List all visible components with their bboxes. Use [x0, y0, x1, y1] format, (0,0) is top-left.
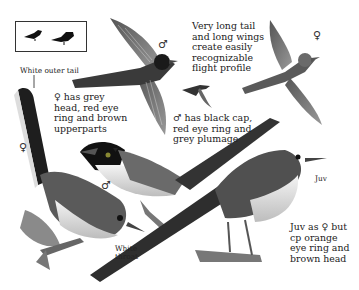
juvenile-tag: Juv: [315, 175, 327, 183]
male-description: ♂ has black cap, red eye ring and grey p…: [173, 113, 252, 145]
flight-profile-note: Very long tail and long wings create eas…: [192, 21, 264, 74]
note-line: brown head: [290, 254, 350, 265]
outer-tail-label: White outer tail: [20, 67, 79, 75]
perched-bird-silhouette-icon: [16, 22, 86, 51]
female-symbol: ♀: [19, 141, 27, 154]
male-symbol: ♂: [101, 179, 111, 192]
note-line: upperparts: [54, 124, 127, 135]
note-line: Juv as ♀ but: [290, 222, 350, 233]
white-throat-label: White throat: [115, 245, 138, 261]
male-symbol: ♂: [158, 38, 168, 51]
note-line: throat: [115, 253, 138, 261]
note-line: flight profile: [192, 63, 264, 74]
silhouette-box: [15, 21, 87, 52]
female-symbol: ♀: [313, 29, 321, 42]
field-guide-plate: White outer tail Very long tail and long…: [0, 0, 359, 290]
juvenile-description: Juv as ♀ but cp orange eye ring and brow…: [290, 222, 350, 264]
note-line: ♀ has grey: [54, 92, 127, 103]
distant-flying-bird: [182, 85, 212, 108]
note-line: ♂ has black cap,: [173, 113, 252, 124]
female-description: ♀ has grey head, red eye ring and brown …: [54, 92, 127, 134]
note-line: grey plumage: [173, 134, 252, 145]
note-line: Very long tail: [192, 21, 264, 32]
